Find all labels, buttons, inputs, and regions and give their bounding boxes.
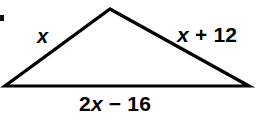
triangle-outline [5,9,249,86]
left-side-variable: x [37,25,48,47]
bottom-side-variable: x [91,92,103,115]
right-side-constant: 12 [213,23,237,46]
bottom-side-constant: 16 [127,92,151,115]
right-side-operator: + [189,23,214,46]
left-side-length-label: x [37,26,48,46]
bottom-side-coefficient: 2 [79,92,91,115]
right-side-length-label: x + 12 [177,24,237,45]
bottom-side-operator: − [103,92,128,115]
right-side-variable: x [177,23,189,46]
bottom-side-length-label: 2x − 16 [79,93,151,114]
scan-artifact-mark [0,15,4,21]
triangle-diagram: x x + 12 2x − 16 [0,0,257,122]
